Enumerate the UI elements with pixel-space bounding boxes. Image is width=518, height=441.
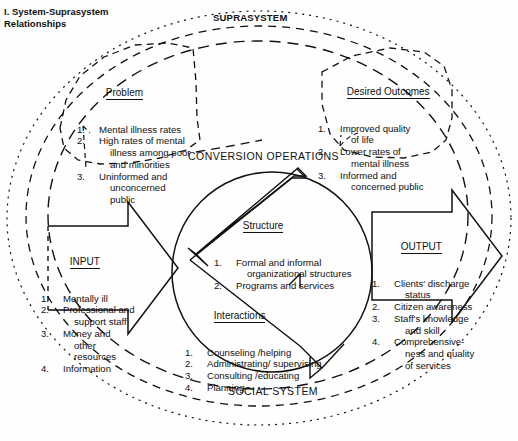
problem-list: 1.Mental illness rates2.High rates of me… xyxy=(88,124,191,206)
list-item-number: 1. xyxy=(196,347,207,359)
list-item-text: High rates of mental xyxy=(99,135,185,146)
list-item-text: Counseling /helping xyxy=(207,347,291,358)
conversion-operations-label: CONVERSION OPERATIONS xyxy=(188,151,339,163)
list-item-text: organizational structures xyxy=(236,268,352,280)
list-item-text: ness and quality xyxy=(394,348,474,360)
problem-region: Problem 1.Mental illness rates2.High rat… xyxy=(88,64,191,242)
list-item-text: Informed and xyxy=(340,170,397,181)
output-heading: OUTPUT xyxy=(401,241,442,253)
input-list: 1.Mentally ill2.Professional andsupport … xyxy=(52,293,134,375)
input-heading: INPUT xyxy=(70,256,100,268)
list-item: 4.Information xyxy=(52,363,134,375)
list-item-text: Lower rates of xyxy=(340,146,401,157)
list-item-text: Mental illness rates xyxy=(99,124,181,135)
list-item-text: other xyxy=(63,340,134,352)
list-item-text: mental illness xyxy=(340,158,430,170)
list-item-number: 3. xyxy=(329,170,340,182)
list-item: 3.Informed andconcerned public xyxy=(329,170,430,193)
list-item-number: 1. xyxy=(225,257,236,269)
list-item-number: 2. xyxy=(52,304,63,316)
list-item-text: Improved quality xyxy=(340,123,410,134)
list-item-text: status xyxy=(394,289,474,301)
list-item-text: unconcerned xyxy=(99,182,191,194)
list-item-number: 3. xyxy=(196,370,207,382)
interactions-list: 1.Counseling /helping2.Administrating/ s… xyxy=(196,347,322,394)
list-item: 2.Citizen awareness xyxy=(383,301,474,313)
list-item: 4.Planning xyxy=(196,382,322,394)
list-item-text: Comprehensive- xyxy=(394,336,464,347)
list-item-number: 1. xyxy=(329,123,340,135)
list-item: 2.Administrating/ supervising xyxy=(196,358,322,370)
list-item: 4.Comprehensive-ness and qualityof servi… xyxy=(383,336,474,371)
interactions-heading: Interactions xyxy=(214,310,266,322)
list-item-text: Consulting /educating xyxy=(207,370,299,381)
list-item-text: Professional and xyxy=(63,304,134,315)
desired-outcomes-heading: Desired Outcomes xyxy=(347,86,430,98)
list-item: 1.Mental illness rates xyxy=(88,124,191,136)
list-item: 1.Clients' dischargestatus xyxy=(383,278,474,301)
list-item-text: and skill xyxy=(394,325,474,337)
list-item-text: Formal and informal xyxy=(236,257,321,268)
list-item-text: illness among poor xyxy=(99,147,191,159)
list-item: 1.Mentally ill xyxy=(52,293,134,305)
list-item: 1.Formal and informalorganizational stru… xyxy=(225,257,352,280)
list-item-text: of services xyxy=(394,360,474,372)
list-item-text: Money and xyxy=(63,328,110,339)
list-item-number: 3. xyxy=(88,171,99,183)
list-item-text: Administrating/ supervising xyxy=(207,358,322,369)
suprasystem-label: SUPRASYSTEM xyxy=(213,13,288,24)
list-item-number: 1. xyxy=(88,124,99,136)
list-item: 3.Money andotherresources xyxy=(52,328,134,363)
list-item-text: of life xyxy=(340,134,430,146)
list-item-number: 1. xyxy=(383,278,394,290)
list-item: 3.Staff's knowledgeand skill xyxy=(383,313,474,336)
structure-heading: Structure xyxy=(243,220,284,232)
diagram-canvas: I. System-Suprasystem Relationships SUPR… xyxy=(0,0,518,441)
list-item-text: Clients' discharge xyxy=(394,278,469,289)
list-item-number: 3. xyxy=(383,313,394,325)
list-item-number: 4. xyxy=(196,382,207,394)
list-item-text: resources xyxy=(63,351,134,363)
list-item: 3.Consulting /educating xyxy=(196,370,322,382)
list-item-number: 4. xyxy=(383,336,394,348)
list-item-number: 2. xyxy=(383,301,394,313)
figure-title: I. System-Suprasystem Relationships xyxy=(4,6,109,30)
list-item: 2.Professional andsupport staff xyxy=(52,304,134,327)
list-item: 2.Lower rates ofmental illness xyxy=(329,146,430,169)
list-item-text: Information xyxy=(63,363,111,374)
list-item: 1.Improved qualityof life xyxy=(329,123,430,146)
list-item-number: 2. xyxy=(88,135,99,147)
list-item-text: Planning xyxy=(207,382,244,393)
desired-outcomes-list: 1.Improved qualityof life2.Lower rates o… xyxy=(329,123,430,193)
list-item-text: and minorities xyxy=(99,159,191,171)
output-list: 1.Clients' dischargestatus2.Citizen awar… xyxy=(383,278,474,372)
list-item-number: 1. xyxy=(52,293,63,305)
list-item-text: public xyxy=(99,194,191,206)
input-region: INPUT 1.Mentally ill2.Professional andsu… xyxy=(52,233,134,411)
list-item: 1.Counseling /helping xyxy=(196,347,322,359)
list-item-text: concerned public xyxy=(340,181,430,193)
output-region: OUTPUT 1.Clients' dischargestatus2.Citiz… xyxy=(383,218,474,408)
list-item: 3.Uninformed andunconcernedpublic xyxy=(88,171,191,206)
list-item-number: 3. xyxy=(52,328,63,340)
problem-heading: Problem xyxy=(106,87,143,99)
list-item-number: 2. xyxy=(196,358,207,370)
list-item: 2.High rates of mentalillness among poor… xyxy=(88,135,191,170)
list-item-text: Citizen awareness xyxy=(394,301,472,312)
list-item-text: Mentally ill xyxy=(63,293,108,304)
list-item-text: Uninformed and xyxy=(99,171,167,182)
list-item-number: 2. xyxy=(329,146,340,158)
list-item-number: 4. xyxy=(52,363,63,375)
list-item-text: support staff xyxy=(63,316,134,328)
interactions-region: Interactions 1.Counseling /helping2.Admi… xyxy=(196,287,322,430)
list-item-text: Staff's knowledge xyxy=(394,313,469,324)
